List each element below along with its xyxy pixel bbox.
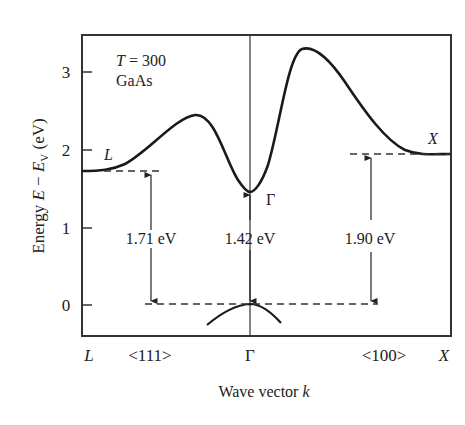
y-tick-label-1: 1 — [62, 219, 71, 238]
temperature-annotation: T = 300 — [116, 52, 166, 69]
x-tick-label-Gamma: Γ — [245, 346, 255, 365]
x-tick-label-X: X — [438, 346, 450, 365]
x-axis-label: Wave vector k — [218, 383, 310, 400]
gap-label-L: 1.71 eV — [126, 230, 177, 247]
y-tick-label-2: 2 — [62, 141, 71, 160]
dashed-reference-lines — [104, 154, 451, 304]
y-tick-label-0: 0 — [62, 296, 71, 315]
material-annotation: GaAs — [116, 72, 152, 89]
y-axis-ticks — [82, 72, 92, 305]
valley-label-Gamma: Γ — [266, 191, 275, 208]
band-structure-chart: 0 1 2 3 Energy E − EV (eV) 1.71 eV 1.42 … — [0, 0, 465, 425]
gap-label-X: 1.90 eV — [345, 230, 396, 247]
x-tick-label-111: <111> — [128, 346, 171, 365]
y-axis-label: Energy E − EV (eV) — [29, 118, 50, 253]
x-tick-label-L: L — [83, 346, 93, 365]
valley-label-L: L — [103, 146, 113, 163]
conduction-band-curve — [82, 48, 451, 192]
gap-label-Gamma: 1.42 eV — [225, 230, 276, 247]
valence-band-curve — [207, 304, 281, 325]
x-tick-label-100: <100> — [362, 346, 407, 365]
y-tick-label-3: 3 — [62, 63, 71, 82]
valley-label-X: X — [427, 130, 439, 147]
